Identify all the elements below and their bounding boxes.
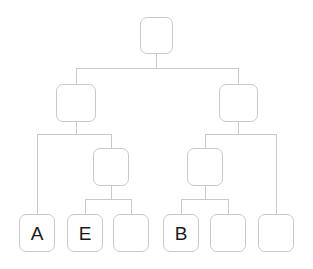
tree-node-level2-right[interactable] [219,84,258,122]
tree-node-level3-right[interactable] [187,148,223,186]
tree-node-label: E [79,224,92,243]
tree-leaf-b[interactable]: B [163,214,199,252]
tree-diagram-canvas: A E B [0,0,313,269]
tree-node-level3-left[interactable] [93,148,129,186]
tree-node-root[interactable] [140,17,173,54]
tree-leaf-e[interactable]: E [67,214,103,252]
tree-leaf-a[interactable]: A [19,214,55,252]
tree-leaf-empty-3[interactable] [258,214,294,252]
tree-node-label: B [175,224,188,243]
tree-node-level2-left[interactable] [56,84,96,122]
tree-leaf-empty-1[interactable] [113,214,149,252]
tree-leaf-empty-2[interactable] [210,214,246,252]
tree-node-label: A [31,224,44,243]
